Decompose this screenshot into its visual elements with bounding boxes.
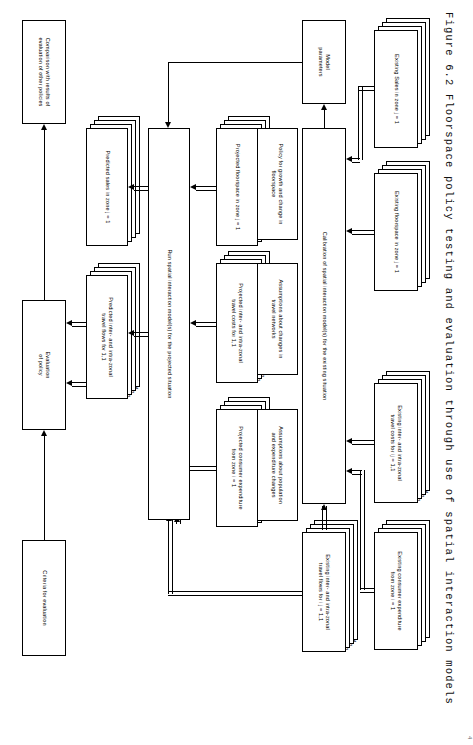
- figure-caption: Figure 6.2 Floorspace policy testing and…: [443, 12, 455, 705]
- arrowhead-run-to-predsales: [128, 184, 134, 190]
- arrowhead-travelcosts-to-calibration: [346, 438, 352, 444]
- box-existing-consumer-exp-label: Existing consumer expenditurefrom zone i…: [389, 533, 404, 649]
- box-run-models-label: Run spatial interaction model(s) for the…: [165, 249, 172, 398]
- box-projected-travel-costs: Projected inter- and intra-zonaltravel c…: [216, 263, 258, 383]
- box-policy-growth-label: Policy for growth and change infloorspac…: [270, 130, 285, 238]
- arrowhead-calibration-to-flows: [321, 504, 327, 510]
- box-assumptions-travel: Assumptions about changes intravel netwo…: [256, 263, 298, 375]
- box-projected-floorspace-label: Projected floorspace in zone j = 1: [233, 144, 240, 230]
- arrowhead-predflows-to-evaluation: [66, 380, 72, 386]
- arrowhead-projcosts-to-run: [190, 320, 196, 326]
- arrowhead-calibration-to-parameters: [321, 104, 327, 110]
- connector-flows-to-run-v2: [168, 520, 173, 592]
- box-predicted-sales: Predicted sales in zone j = 1: [86, 128, 128, 246]
- arrowhead-evaluation-to-comparison: [41, 124, 47, 130]
- box-assumptions-pop-label: Assumptions about populationand expendit…: [270, 411, 285, 519]
- arrowhead-predsales-to-evaluation: [66, 320, 72, 326]
- box-assumptions-travel-label: Assumptions about changes intravel netwo…: [270, 265, 285, 373]
- box-existing-consumer-exp: Existing consumer expenditurefrom zone i…: [374, 532, 418, 650]
- box-comparison-label: Comparison with results ofevaluation of …: [37, 22, 52, 122]
- arrowhead-run-to-predflows: [128, 330, 134, 336]
- arrowhead-consumerexp-to-calibration: [346, 468, 352, 474]
- box-existing-travel-flows: Existing inter- and intra-zonaltravel fl…: [302, 532, 346, 652]
- box-existing-floorspace: Existing floorspace in zone j = 1: [374, 173, 418, 291]
- connector-consumerexp-to-calibration-v: [360, 470, 365, 590]
- box-assumptions-pop: Assumptions about populationand expendit…: [256, 409, 298, 521]
- box-existing-travel-flows-label: Existing inter- and intra-zonaltravel fl…: [317, 533, 332, 651]
- box-existing-floorspace-label: Existing floorspace in zone j = 1: [392, 191, 399, 273]
- connector-criteria-to-evaluation: [44, 436, 45, 540]
- connector-parameters-to-run-h: [168, 62, 304, 63]
- box-existing-sales-label: Existing Sales in zone j = 1: [392, 54, 399, 124]
- figure-canvas: Figure 6.2 Floorspace policy testing and…: [0, 0, 473, 745]
- box-predicted-sales-label: Predicted sales in zone j = 1: [103, 150, 110, 223]
- connector-travelcosts-to-calibration: [352, 440, 376, 445]
- box-evaluation-of-policy-label: Evaluationof policy: [37, 303, 52, 427]
- box-projected-consumer-exp-label: Projected consumer expenditurefrom zone …: [230, 410, 245, 526]
- box-calibration-label: Calibration of spatial interaction model…: [320, 232, 327, 401]
- arrowhead-sales-to-calibration: [346, 156, 352, 162]
- box-projected-consumer-exp: Projected consumer expenditurefrom zone …: [216, 409, 258, 527]
- box-calibration: Calibration of spatial interaction model…: [302, 128, 346, 504]
- box-evaluation-of-policy: Evaluationof policy: [22, 300, 66, 430]
- connector-projcosts-to-run: [196, 322, 216, 327]
- box-predicted-travel-flows: Predicted inter- and intra-zonaltravel f…: [86, 275, 128, 399]
- connector-flows-to-run-h: [168, 591, 304, 596]
- box-comparison: Comparison with results ofevaluation of …: [22, 20, 66, 124]
- box-policy-growth: Policy for growth and change infloorspac…: [256, 128, 298, 240]
- arrowhead-projfloorspace-to-run: [190, 184, 196, 190]
- box-projected-floorspace: Projected floorspace in zone j = 1: [216, 128, 258, 246]
- connector-sales-to-calibration-h2: [352, 158, 360, 163]
- box-existing-sales: Existing Sales in zone j = 1: [374, 30, 418, 148]
- box-predicted-travel-flows-label: Predicted inter- and intra-zonaltravel f…: [100, 277, 115, 397]
- connector-sales-to-calibration-v: [358, 86, 363, 160]
- connector-calibration-to-parameters: [324, 110, 325, 130]
- box-criteria: Criteria for evaluation: [22, 540, 66, 656]
- box-model-parameters-label: Modelparameters: [317, 22, 332, 102]
- connector-parameters-to-run-v: [168, 62, 169, 122]
- arrowhead-criteria-to-evaluation: [41, 430, 47, 436]
- box-run-models: Run spatial interaction model(s) for the…: [148, 128, 190, 520]
- page-corner-mark: 4: [467, 736, 473, 739]
- arrowhead-floorspace-to-calibration: [346, 228, 352, 234]
- box-projected-travel-costs-label: Projected inter- and intra-zonaltravel c…: [230, 265, 245, 381]
- connector-evaluation-to-comparison: [44, 130, 45, 300]
- box-model-parameters: Modelparameters: [302, 20, 346, 104]
- connector-projfloorspace-to-run: [196, 186, 216, 191]
- box-existing-travel-costs-label: Existing inter- and intra-zonaltravel co…: [389, 384, 404, 502]
- box-existing-travel-costs: Existing inter- and intra-zonaltravel co…: [374, 383, 418, 503]
- box-criteria-label: Criteria for evaluation: [40, 570, 47, 625]
- connector-consumerexp-to-calibration-h2: [352, 470, 362, 475]
- connector-floorspace-to-calibration: [352, 230, 376, 235]
